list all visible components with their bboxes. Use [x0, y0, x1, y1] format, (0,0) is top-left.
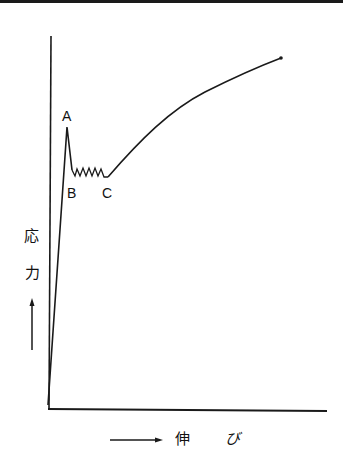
y-label-char-2: 力: [25, 266, 40, 281]
curve-end-dot: [279, 56, 283, 60]
point-b-label: B: [67, 186, 76, 200]
y-arrow-head: [30, 298, 35, 306]
hardening-curve: [108, 58, 281, 177]
x-arrow-head: [155, 438, 163, 443]
x-label-char-1: 伸: [175, 432, 190, 447]
chart-plot: [0, 0, 343, 475]
point-a-label: A: [62, 109, 71, 123]
point-c-label: C: [102, 186, 112, 200]
elastic-line: [48, 127, 72, 405]
y-label-char-1: 応: [24, 229, 39, 244]
yield-zigzag: [72, 168, 108, 177]
x-label-char-2: び: [225, 432, 240, 447]
x-axis: [48, 409, 327, 411]
y-axis: [49, 36, 51, 409]
